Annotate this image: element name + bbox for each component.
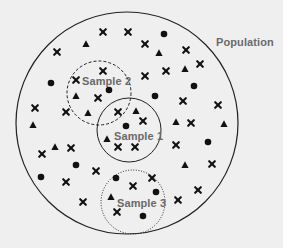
dot-marker-icon — [106, 87, 113, 94]
population-label: Population — [216, 36, 274, 48]
dot-marker-icon — [153, 189, 160, 196]
sample-3-label: Sample 3 — [117, 197, 166, 209]
dot-marker-icon — [38, 174, 45, 181]
dot-marker-icon — [123, 123, 130, 130]
sample-1-label: Sample 1 — [114, 130, 163, 142]
dot-marker-icon — [140, 213, 147, 220]
dot-marker-icon — [73, 162, 80, 169]
sample-2-label: Sample 2 — [82, 75, 131, 87]
population-sampling-diagram: Population Sample 1Sample 2Sample 3 — [0, 0, 283, 248]
dot-marker-icon — [205, 139, 212, 146]
dot-marker-icon — [152, 93, 159, 100]
dot-marker-icon — [191, 83, 198, 90]
dot-marker-icon — [113, 175, 120, 182]
dot-marker-icon — [161, 31, 168, 38]
dot-marker-icon — [48, 80, 55, 87]
